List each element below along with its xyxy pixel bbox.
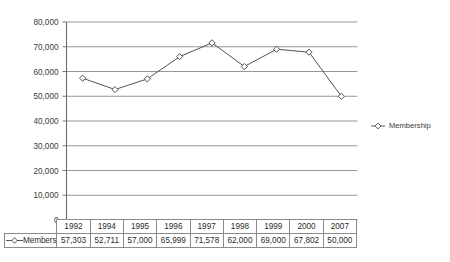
table-cell-value: 52,711 (90, 234, 123, 248)
y-axis-tick-label: 80,000 (33, 18, 58, 27)
table-column-header: 1998 (223, 220, 256, 234)
table-header-row: 199219941995199619971998199920002007 (5, 220, 357, 234)
table-corner-cell (5, 220, 57, 234)
data-table: 199219941995199619971998199920002007 Mem… (4, 219, 357, 248)
y-axis-tick-label: 10,000 (33, 191, 58, 200)
table-cell-value: 62,000 (223, 234, 256, 248)
table-cell-value: 50,000 (323, 234, 356, 248)
y-axis-tick-label: 50,000 (33, 92, 58, 101)
y-axis-tick-label: 30,000 (33, 142, 58, 151)
table-cell-value: 71,578 (190, 234, 223, 248)
table-cell-value: 57,000 (123, 234, 156, 248)
table-cell-value: 69,000 (257, 234, 290, 248)
data-series-membership (80, 40, 345, 100)
table-row-header-membership: Membership (5, 234, 57, 248)
legend-marker-icon (375, 123, 381, 129)
series-line (83, 43, 342, 96)
membership-line-chart: 010,00020,00030,00040,00050,00060,00070,… (0, 0, 450, 262)
legend-item-label[interactable]: Membership (389, 121, 431, 130)
data-point-marker[interactable] (144, 76, 150, 82)
y-axis-tick-label: 20,000 (33, 167, 58, 176)
table-column-header: 1995 (123, 220, 156, 234)
table-column-header: 1999 (257, 220, 290, 234)
plot-area: 010,00020,00030,00040,00050,00060,00070,… (0, 0, 450, 225)
y-axis-tick-label: 40,000 (33, 117, 58, 126)
table-cell-value: 67,802 (290, 234, 323, 248)
gridlines (63, 22, 358, 220)
series-name-label: Membership (23, 234, 57, 247)
data-point-marker[interactable] (112, 86, 118, 92)
table-column-header: 1997 (190, 220, 223, 234)
table-column-header: 2007 (323, 220, 356, 234)
table-column-header: 2000 (290, 220, 323, 234)
data-table-container: 199219941995199619971998199920002007 Mem… (4, 219, 358, 248)
legend: Membership (371, 121, 431, 130)
table-row: Membership 57,30352,71157,00065,99971,57… (5, 234, 357, 248)
table-column-header: 1992 (57, 220, 90, 234)
y-axis-tick-label: 70,000 (33, 43, 58, 52)
y-axis-tick-labels: 010,00020,00030,00040,00050,00060,00070,… (33, 18, 58, 225)
series-marker-icon (6, 236, 23, 245)
y-axis-tick-label: 60,000 (33, 68, 58, 77)
table-cell-value: 65,999 (157, 234, 190, 248)
data-point-marker[interactable] (80, 75, 86, 81)
data-point-marker[interactable] (177, 54, 183, 60)
table-column-header: 1996 (157, 220, 190, 234)
table-cell-value: 57,303 (57, 234, 90, 248)
plot-svg: 010,00020,00030,00040,00050,00060,00070,… (0, 0, 450, 225)
table-column-header: 1994 (90, 220, 123, 234)
